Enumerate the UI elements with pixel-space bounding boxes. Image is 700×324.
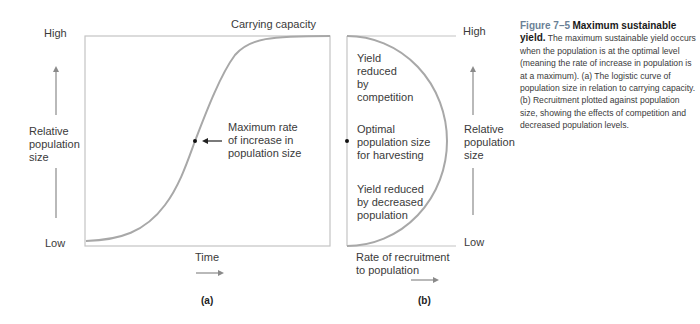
figure-number: Figure 7–5 xyxy=(520,20,570,31)
region-line: population xyxy=(357,209,424,222)
region-line: by decreased xyxy=(357,196,424,209)
max-rate-annotation: Maximum rate of increase in population s… xyxy=(228,121,301,160)
region-line: Yield reduced xyxy=(357,183,424,196)
x-label-line: to population xyxy=(356,264,450,277)
panel-b-y-high: High xyxy=(463,25,486,38)
y-label-line: size xyxy=(464,149,515,162)
y-label-line: Relative xyxy=(464,123,515,136)
carrying-capacity-label: Carrying capacity xyxy=(231,18,316,31)
panel-a-y-high: High xyxy=(44,27,67,40)
region-line: competition xyxy=(357,91,413,104)
y-label-line: population xyxy=(464,136,515,149)
arrowhead-up-b xyxy=(470,66,476,72)
region-mid-label: Optimal population size for harvesting xyxy=(357,123,430,162)
optimal-point xyxy=(345,139,349,143)
panel-b-y-axis-label: Relative population size xyxy=(464,123,515,162)
annotation-line: population size xyxy=(228,147,301,160)
region-bottom-label: Yield reduced by decreased population xyxy=(357,183,424,222)
annotation-line: Maximum rate xyxy=(228,121,301,134)
panel-a-y-axis-label: Relative population size xyxy=(29,125,80,164)
panel-a-y-low: Low xyxy=(45,237,65,250)
x-label-line: Rate of recruitment xyxy=(356,251,450,264)
region-line: reduced xyxy=(357,65,413,78)
arrowhead-right-b xyxy=(433,277,439,283)
panel-b-label: (b) xyxy=(418,295,431,306)
region-line: by xyxy=(357,78,413,91)
y-label-line: population xyxy=(29,138,80,151)
region-line: Optimal xyxy=(357,123,430,136)
y-label-line: Relative xyxy=(29,125,80,138)
panel-b-y-low: Low xyxy=(464,236,484,249)
arrowhead-up-a xyxy=(53,66,59,72)
panel-a-x-axis-label: Time xyxy=(195,251,219,264)
arrowhead-right-a xyxy=(218,270,224,276)
caption-body: The maximum sustainable yield occurs whe… xyxy=(520,33,696,130)
region-line: for harvesting xyxy=(357,149,430,162)
panel-b-x-axis-label: Rate of recruitment to population xyxy=(356,251,450,277)
max-rate-point xyxy=(193,139,197,143)
figure-caption: Figure 7–5 Maximum sustainable yield. Th… xyxy=(520,20,698,132)
annotation-line: of increase in xyxy=(228,134,301,147)
annotation-arrow-head xyxy=(202,138,208,144)
y-label-line: size xyxy=(29,151,80,164)
panel-a-label: (a) xyxy=(201,295,213,306)
region-line: population size xyxy=(357,136,430,149)
region-line: Yield xyxy=(357,52,413,65)
region-top-label: Yield reduced by competition xyxy=(357,52,413,104)
